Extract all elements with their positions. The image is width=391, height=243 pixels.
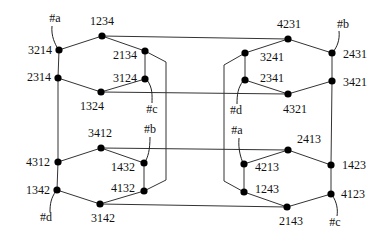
edge	[101, 92, 288, 94]
node-3412	[97, 144, 104, 151]
edge	[100, 204, 287, 207]
edge	[287, 194, 331, 207]
tag-connector	[332, 195, 337, 216]
edge	[288, 39, 332, 53]
node-label: 3421	[343, 75, 367, 89]
node-labels: 1234321423141324213431244231324123414321…	[26, 14, 367, 228]
node-label: 3124	[113, 71, 137, 85]
edge	[144, 51, 166, 191]
node-2341	[241, 76, 248, 83]
node-1423	[327, 161, 334, 168]
edge	[58, 50, 59, 78]
node-2431	[328, 49, 335, 56]
edge	[59, 36, 102, 50]
tag-label: #c	[329, 215, 340, 229]
node-4123	[327, 190, 334, 197]
nodes	[53, 32, 335, 210]
edge	[57, 190, 100, 204]
node-2143	[283, 203, 290, 210]
node-label: 3214	[28, 43, 52, 57]
node-label: 1342	[26, 183, 50, 197]
edge	[58, 148, 101, 162]
node-3241	[241, 49, 248, 56]
node-label: 4132	[111, 181, 135, 195]
tag-connector	[147, 80, 152, 103]
edge	[288, 150, 331, 165]
tag-label: #a	[49, 11, 61, 25]
edge	[101, 148, 288, 150]
tag-label: #c	[146, 102, 157, 116]
tag-connector	[145, 137, 150, 162]
tag-label: #a	[231, 123, 243, 137]
node-label: 2143	[279, 214, 303, 228]
node-4312	[54, 158, 61, 165]
tag-connector	[239, 138, 243, 163]
tag-connector	[237, 81, 243, 104]
edge	[57, 162, 58, 190]
node-4213	[240, 160, 247, 167]
tag-label: #d	[230, 103, 242, 117]
node-4132	[140, 187, 147, 194]
node-label: 1243	[255, 182, 279, 196]
node-label: 4213	[255, 160, 279, 174]
node-label: 1324	[80, 99, 104, 113]
tag-connector	[333, 31, 339, 52]
edge	[102, 36, 288, 39]
node-1234	[98, 32, 105, 39]
node-label: 4123	[341, 187, 365, 201]
node-label: 4312	[26, 155, 50, 169]
tag-label: #b	[337, 17, 349, 31]
edges	[57, 36, 332, 207]
node-label: 2314	[27, 70, 51, 84]
node-1243	[240, 188, 247, 195]
node-3142	[96, 200, 103, 207]
node-2413	[284, 146, 291, 153]
node-1342	[53, 186, 60, 193]
node-1324	[97, 88, 104, 95]
node-2314	[54, 74, 61, 81]
node-label: 2413	[297, 132, 321, 146]
node-4231	[284, 35, 291, 42]
node-label: 1234	[90, 14, 114, 28]
node-label: 1423	[342, 158, 366, 172]
edge	[288, 81, 332, 94]
edge	[58, 78, 101, 92]
node-label: 4231	[277, 17, 301, 31]
node-3421	[328, 77, 335, 84]
tag-label: #b	[144, 122, 156, 136]
node-label: 2134	[113, 48, 137, 62]
permutation-graph-diagram: 1234321423141324213431244231324123414321…	[0, 0, 391, 243]
node-label: 2341	[260, 71, 284, 85]
node-3124	[141, 75, 148, 82]
node-2134	[141, 47, 148, 54]
node-label: 3241	[260, 50, 284, 64]
node-label: 3412	[88, 126, 112, 140]
tag-connectors	[50, 26, 339, 216]
edge	[331, 81, 332, 165]
node-4321	[284, 90, 291, 97]
node-label: 2431	[343, 47, 367, 61]
node-label: 4321	[283, 102, 307, 116]
node-1432	[140, 159, 147, 166]
node-label: 1432	[111, 160, 135, 174]
node-label: 3142	[91, 211, 115, 225]
tag-connector	[50, 191, 56, 212]
tag-connector	[52, 26, 58, 49]
node-3214	[55, 46, 62, 53]
tag-label: #d	[40, 210, 52, 224]
